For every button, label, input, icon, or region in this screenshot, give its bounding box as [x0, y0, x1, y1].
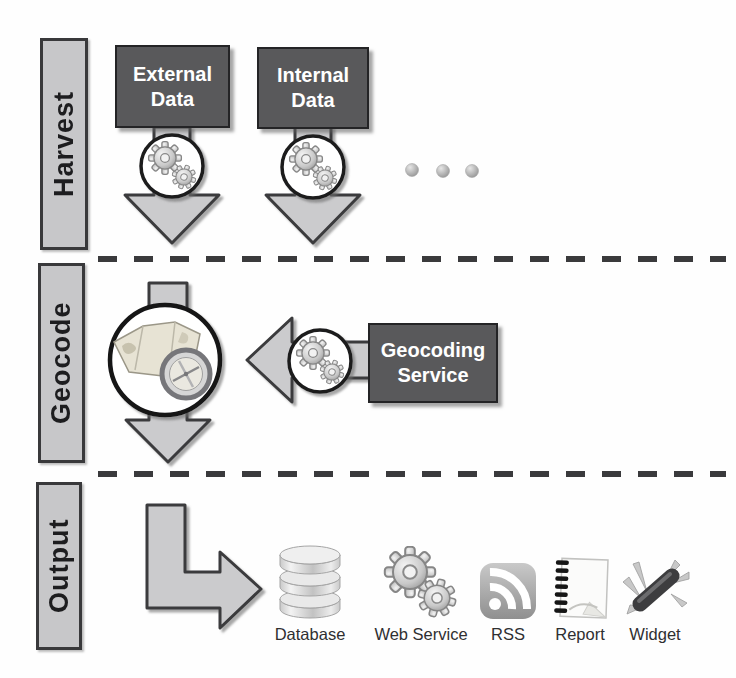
output-item-label: Database — [275, 625, 346, 644]
pipeline-diagram: Harvest Geocode Output External Data Int… — [0, 0, 736, 678]
output-elbow-arrow — [147, 505, 261, 628]
output-item-label: RSS — [491, 625, 525, 644]
output-item-label: Web Service — [374, 625, 467, 644]
output-item-widget: Widget — [605, 546, 705, 644]
internal-data-box: Internal Data — [257, 47, 369, 129]
widget-icon — [617, 546, 693, 620]
geocoding-service-box: Geocoding Service — [368, 323, 498, 403]
stage-label-output: Output — [36, 482, 82, 650]
process-badge-service — [289, 330, 351, 392]
external-data-box: External Data — [115, 45, 230, 128]
output-item-database: Database — [260, 546, 360, 644]
database-icon — [276, 546, 344, 620]
process-badge-external — [141, 135, 203, 197]
stage-label-harvest: Harvest — [40, 38, 88, 250]
output-item-label: Widget — [629, 625, 680, 644]
gears-icon — [382, 546, 460, 620]
rss-icon — [479, 546, 537, 620]
output-item-label: Report — [555, 625, 605, 644]
stage-divider-geocode-output — [98, 471, 726, 477]
geocode-node — [110, 305, 220, 415]
process-badge-internal — [282, 136, 344, 198]
stage-divider-harvest-geocode — [98, 256, 726, 262]
report-icon — [548, 546, 612, 620]
stage-label-geocode: Geocode — [38, 263, 85, 463]
output-item-web-service: Web Service — [371, 546, 471, 644]
ellipsis-dots — [406, 164, 479, 178]
